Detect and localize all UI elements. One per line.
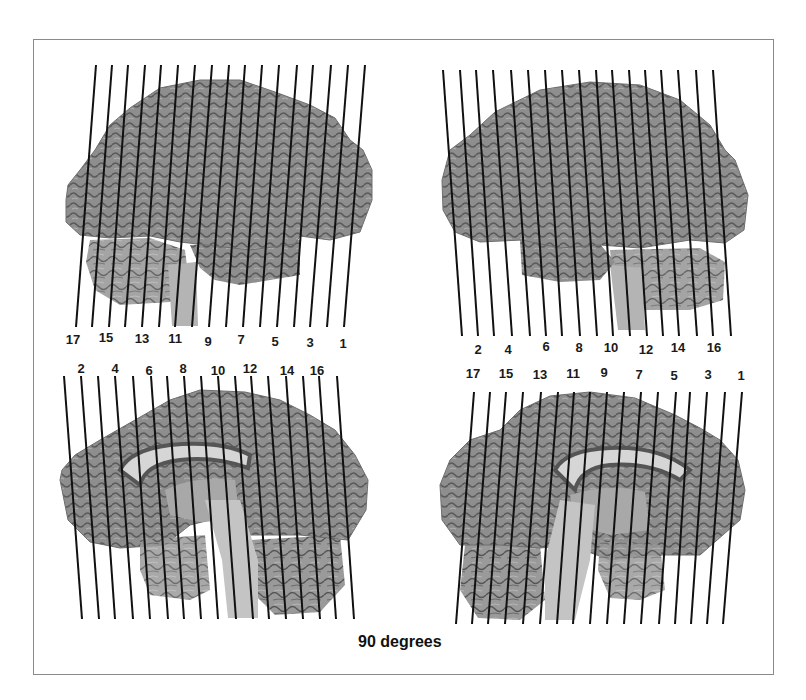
slice-number-label: 16 [310,363,324,378]
slice-number-label: 10 [604,340,618,355]
slice-number-label: 5 [670,368,677,383]
lower-brainstem [598,540,665,600]
cerebrum [440,392,745,560]
slice-number-label: 10 [211,363,225,378]
slice-number-label: 12 [243,361,257,376]
slice-number-label: 14 [671,340,685,355]
slice-number-label: 2 [77,361,84,376]
slice-number-label: 3 [704,367,711,382]
slice-number-label: 12 [639,342,653,357]
slice-number-label: 16 [707,340,721,355]
slice-number-label: 11 [566,366,580,381]
slice-number-label: 1 [737,368,744,383]
slice-number-label: 17 [66,332,80,347]
slice-number-label: 5 [271,334,278,349]
cerebrum [66,80,372,250]
slice-number-label: 4 [111,361,118,376]
slice-number-label: 11 [168,331,182,346]
slice-number-label: 3 [306,335,313,350]
slice-number-label: 17 [466,366,480,381]
slice-number-label: 6 [145,363,152,378]
slice-number-label: 6 [542,339,549,354]
slice-number-label: 4 [504,342,511,357]
slice-number-label: 9 [600,365,607,380]
slice-number-label: 8 [575,340,582,355]
slice-number-label: 13 [135,331,149,346]
figure-caption: 90 degrees [358,633,442,651]
slice-number-label: 14 [280,363,294,378]
slice-number-label: 9 [204,334,211,349]
slice-number-label: 1 [339,336,346,351]
slice-number-label: 7 [237,332,244,347]
slice-number-label: 7 [635,367,642,382]
slice-number-label: 13 [533,367,547,382]
slice-number-label: 15 [99,330,113,345]
slice-number-label: 15 [499,366,513,381]
slice-number-label: 2 [474,342,481,357]
slice-number-label: 8 [179,361,186,376]
